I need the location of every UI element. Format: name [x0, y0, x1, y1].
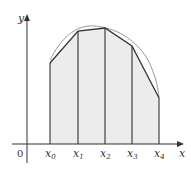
trapezoid-diagram: y x 0 x0 x1 x2 x3 x4: [0, 0, 191, 171]
tick-label-x4: x4: [154, 147, 165, 161]
y-axis-arrow-icon: [24, 14, 30, 21]
x-axis-label: x: [179, 147, 186, 160]
tick-label-x0: x0: [45, 147, 56, 161]
origin-label: 0: [17, 148, 23, 159]
tick-label-x1: x1: [73, 147, 84, 161]
tick-label-x3: x3: [127, 147, 138, 161]
y-axis-label: y: [17, 12, 25, 25]
tick-label-x2: x2: [100, 147, 111, 161]
